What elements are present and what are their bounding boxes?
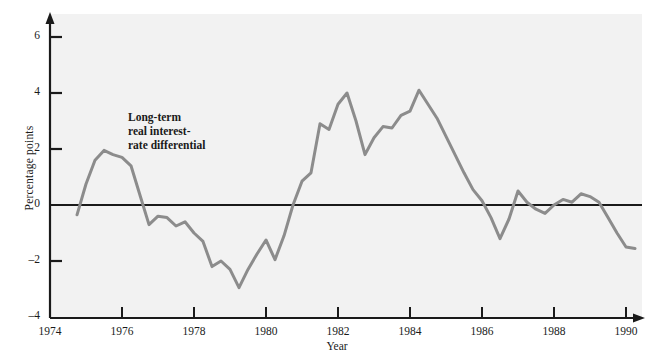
y-tick-label: 2: [14, 141, 40, 153]
y-tick-label: 6: [14, 29, 40, 41]
chart-figure: Percentage points Year 19741976197819801…: [0, 0, 655, 361]
chart-canvas: [0, 0, 655, 361]
x-axis-title: Year: [297, 340, 377, 352]
y-tick-label: 0: [14, 197, 40, 209]
x-tick-label: 1984: [385, 325, 435, 337]
x-tick-label: 1982: [313, 325, 363, 337]
x-tick-label: 1988: [529, 325, 579, 337]
x-axis-arrow-icon: [633, 314, 645, 323]
y-tick-label: –2: [14, 253, 40, 265]
x-tick-marks: [122, 307, 626, 318]
y-axis-arrow-icon: [46, 12, 55, 24]
axes-group: [46, 12, 646, 323]
x-tick-label: 1980: [241, 325, 291, 337]
x-tick-label: 1978: [169, 325, 219, 337]
y-tick-label: –4: [14, 309, 40, 321]
y-tick-marks: [50, 37, 62, 261]
y-axis-title: Percentage points: [23, 98, 35, 238]
x-tick-label: 1976: [97, 325, 147, 337]
x-tick-label: 1974: [25, 325, 75, 337]
y-tick-label: 4: [14, 85, 40, 97]
series-annotation-label: Long-term real interest- rate differenti…: [128, 110, 205, 152]
x-tick-label: 1986: [457, 325, 507, 337]
x-tick-label: 1990: [601, 325, 651, 337]
